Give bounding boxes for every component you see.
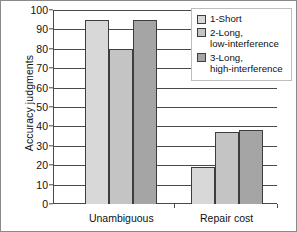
legend-item[interactable]: 1-Short	[197, 13, 286, 25]
legend-swatch-icon	[197, 15, 206, 24]
y-tick-label: 0	[42, 198, 48, 210]
bar	[109, 49, 133, 204]
bar	[85, 20, 109, 204]
legend-item[interactable]: 2-Long, low-interference	[197, 27, 286, 50]
y-axis-title: Accuracy judgments	[23, 23, 35, 183]
y-tick-mark	[49, 184, 53, 185]
y-tick-mark	[49, 164, 53, 165]
legend-swatch-icon	[197, 28, 206, 37]
bar-group	[85, 10, 157, 204]
y-tick-mark	[49, 48, 53, 49]
y-tick-label: 90	[36, 23, 48, 35]
y-tick-mark	[49, 203, 53, 204]
y-tick-label: 10	[36, 179, 48, 191]
legend-item[interactable]: 3-Long, high-interference	[197, 52, 286, 75]
y-tick-mark	[49, 29, 53, 30]
y-tick-label: 50	[36, 101, 48, 113]
y-tick-mark	[49, 87, 53, 88]
chart-legend: 1-Short2-Long, low-interference3-Long, h…	[191, 8, 292, 81]
y-tick-label: 30	[36, 140, 48, 152]
y-tick-label: 80	[36, 43, 48, 55]
y-tick-label: 70	[36, 62, 48, 74]
y-tick-label: 40	[36, 120, 48, 132]
y-tick-mark	[49, 145, 53, 146]
legend-swatch-icon	[197, 53, 206, 62]
y-tick-mark	[49, 67, 53, 68]
bar	[215, 132, 239, 204]
bar	[191, 167, 215, 204]
y-tick-mark	[49, 9, 53, 10]
y-tick-label: 100	[30, 4, 48, 16]
y-tick-mark	[49, 106, 53, 107]
legend-label: 1-Short	[210, 13, 242, 25]
y-tick-label: 20	[36, 159, 48, 171]
y-tick-label: 60	[36, 82, 48, 94]
x-category-label: Unambiguous	[89, 212, 154, 224]
x-category-label: Repair cost	[200, 212, 253, 224]
bar	[133, 20, 157, 204]
x-tick-mark-end	[277, 204, 278, 208]
bar-chart-figure: Accuracy judgments 010203040506070809010…	[0, 0, 297, 232]
y-tick-mark	[49, 126, 53, 127]
legend-label: 3-Long, high-interference	[210, 52, 283, 75]
x-tick-mark	[174, 204, 175, 208]
bar	[239, 130, 263, 204]
legend-label: 2-Long, low-interference	[210, 27, 279, 50]
